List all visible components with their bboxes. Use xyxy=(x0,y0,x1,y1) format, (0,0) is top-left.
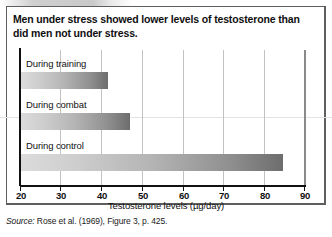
bar-label-during-control: During control xyxy=(26,140,84,151)
x-axis-title: Testosterone levels (µg/day) xyxy=(0,200,332,211)
bar-during-control xyxy=(20,154,283,171)
gridline-90 xyxy=(304,50,306,185)
source-note: Source: Rose et al. (1969), Figure 3, p.… xyxy=(6,216,167,226)
y-axis-line xyxy=(19,48,21,186)
bar-during-combat xyxy=(20,113,130,130)
bar-during-training xyxy=(20,72,108,89)
source-citation: Rose et al. (1969), Figure 3, p. 425. xyxy=(35,216,168,226)
figure-title: Men under stress showed lower levels of … xyxy=(13,12,313,40)
bar-label-during-combat: During combat xyxy=(26,99,86,110)
source-label: Source: xyxy=(6,216,35,226)
bar-label-during-training: During training xyxy=(26,58,86,69)
figure-container: Men under stress showed lower levels of … xyxy=(0,0,332,237)
